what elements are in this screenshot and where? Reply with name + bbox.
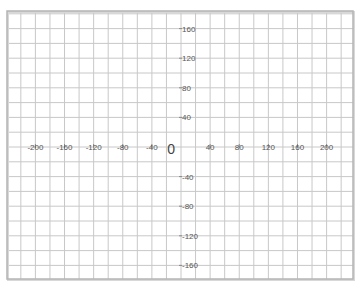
x-tick-label: 80 (235, 143, 244, 152)
y-tick-label: 80 (182, 84, 191, 93)
x-tick-label: -120 (86, 143, 103, 152)
x-tick-label: 40 (206, 143, 215, 152)
y-tick-label: -120 (182, 232, 199, 241)
x-tick-label: -160 (57, 143, 74, 152)
y-tick-label: -40 (182, 173, 194, 182)
x-tick-label: 160 (291, 143, 305, 152)
y-tick-label: 120 (182, 54, 196, 63)
x-tick-label: 200 (320, 143, 334, 152)
x-tick-label: -80 (117, 143, 129, 152)
x-tick-label: 120 (262, 143, 276, 152)
coordinate-plane: -200-160-120-80-404080120160200 16012080… (0, 0, 361, 290)
x-tick-label: -40 (146, 143, 158, 152)
y-tick-label: 40 (182, 113, 191, 122)
y-tick-label: -80 (182, 202, 194, 211)
y-tick-label: -160 (182, 261, 199, 270)
origin-label: 0 (167, 141, 175, 157)
y-tick-label: 160 (182, 25, 196, 34)
x-tick-label: -200 (27, 143, 44, 152)
